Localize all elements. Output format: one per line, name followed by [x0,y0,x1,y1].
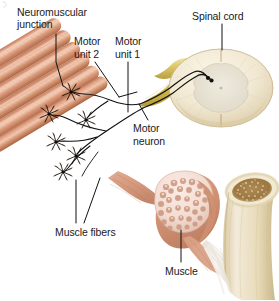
motor-unit-diagram: Neuromuscular junction Motor unit 2 Moto… [0,0,279,301]
label-neuromuscular-junction-line2: junction [16,18,53,30]
label-motor-neuron-line2: neuron [133,135,165,147]
label-muscle: Muscle [165,265,198,277]
label-spinal-cord: Spinal cord [192,10,244,22]
label-motor-unit-1-line2: unit 1 [115,48,140,60]
bone-cross-section [223,171,279,300]
label-motor-unit-2-line1: Motor [74,35,101,47]
label-motor-unit-2-line2: unit 2 [74,48,99,60]
label-motor-unit-1-line1: Motor [115,35,142,47]
label-motor-neuron-line1: Motor [133,122,160,134]
label-muscle-fibers: Muscle fibers [55,226,116,238]
label-neuromuscular-junction-line1: Neuromuscular [17,6,87,18]
